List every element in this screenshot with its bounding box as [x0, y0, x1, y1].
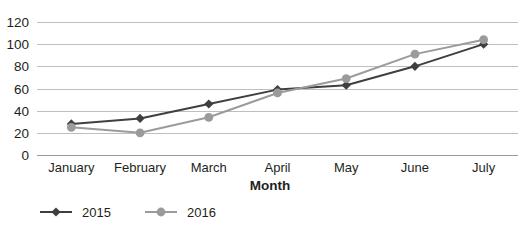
x-axis-tick-label: January	[48, 160, 95, 175]
y-axis-tick-label: 20	[14, 126, 29, 141]
y-axis-tick-label: 0	[21, 148, 29, 163]
legend-label-2015: 2015	[82, 205, 111, 220]
x-axis-tick-label: May	[334, 160, 359, 175]
chart-canvas: 020406080100120 JanuaryFebruaryMarchApri…	[0, 0, 531, 235]
chart-background	[0, 0, 531, 235]
y-axis-tick-label: 40	[14, 104, 29, 119]
y-axis-tick-label: 60	[14, 82, 29, 97]
data-point-marker	[342, 74, 351, 83]
y-axis-tick-label: 80	[14, 59, 29, 74]
data-point-marker	[204, 113, 213, 122]
data-point-marker	[136, 128, 145, 137]
x-axis-tick-label: March	[191, 160, 227, 175]
legend-swatch-marker	[157, 208, 166, 217]
legend-label-2016: 2016	[187, 205, 216, 220]
data-point-marker	[273, 89, 282, 98]
x-axis-tick-label: July	[472, 160, 496, 175]
x-axis-tick-label: April	[264, 160, 290, 175]
x-axis-title: Month	[250, 178, 290, 193]
x-axis-tick-labels: JanuaryFebruaryMarchAprilMayJuneJuly	[48, 160, 495, 175]
line-chart: 020406080100120 JanuaryFebruaryMarchApri…	[0, 0, 531, 235]
data-point-marker	[67, 123, 76, 132]
y-axis-tick-label: 100	[6, 37, 29, 52]
x-axis-tick-label: February	[114, 160, 167, 175]
data-point-marker	[479, 35, 488, 44]
data-point-marker	[411, 50, 420, 59]
y-axis-tick-label: 120	[6, 15, 29, 30]
x-axis-tick-label: June	[401, 160, 429, 175]
